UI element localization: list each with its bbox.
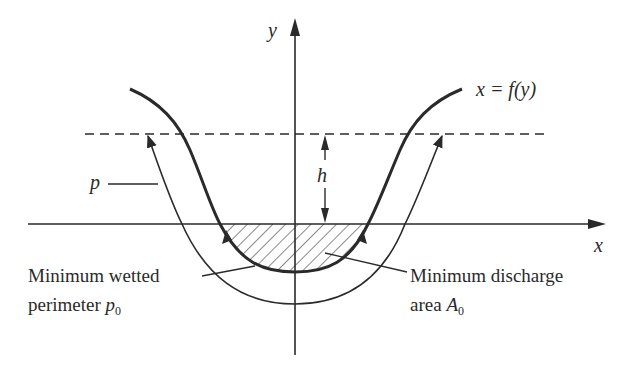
channel-cross-section-diagram: y x x = f(y) h p Minimum wetted perimete… <box>0 0 625 368</box>
h-arrow-down-icon <box>321 208 329 223</box>
wetted-perimeter-label-line2: perimeter p0 <box>28 294 121 318</box>
discharge-area-label-line2: area A0 <box>410 294 464 318</box>
y-axis-arrow-icon <box>290 18 300 36</box>
curve-equation-label: x = f(y) <box>475 78 536 101</box>
x-axis-arrow-icon <box>588 219 606 229</box>
outer-curve-label: p <box>88 171 100 194</box>
h-arrow-up-icon <box>321 135 329 150</box>
discharge-area-hatch <box>220 224 368 272</box>
discharge-area-label-line1: Minimum discharge <box>410 265 563 286</box>
y-axis-label: y <box>266 19 277 42</box>
wetted-perimeter-label-line1: Minimum wetted <box>28 265 160 286</box>
height-label: h <box>317 164 327 186</box>
x-axis-label: x <box>593 234 603 256</box>
